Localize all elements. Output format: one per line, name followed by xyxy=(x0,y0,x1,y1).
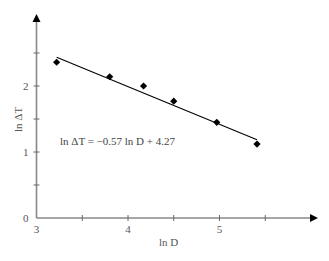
y-tick-label: 1 xyxy=(23,146,29,158)
diamond-marker-icon xyxy=(106,73,113,80)
equation-annotation: ln ΔT = −0.57 ln D + 4.27 xyxy=(60,135,176,147)
fit-line xyxy=(57,57,257,139)
x-tick-label: 5 xyxy=(217,223,223,235)
y-axis-label: ln ΔT xyxy=(12,107,24,132)
regression-line xyxy=(57,57,257,139)
diamond-marker-icon xyxy=(213,119,220,126)
y-axis-arrow-icon xyxy=(33,14,41,22)
y-tick-label: 2 xyxy=(23,80,29,92)
x-tick-label: 3 xyxy=(34,223,40,235)
diamond-marker-icon xyxy=(170,98,177,105)
diamond-marker-icon xyxy=(140,82,147,89)
axes xyxy=(33,14,319,222)
diamond-marker-icon xyxy=(53,59,60,66)
x-tick-label: 4 xyxy=(125,223,131,235)
x-axis-label: ln D xyxy=(159,236,178,248)
y-tick-label: 0 xyxy=(23,212,29,224)
x-axis-arrow-icon xyxy=(310,214,318,222)
diamond-marker-icon xyxy=(253,140,260,147)
scatter-chart: 345012 ln ΔT = −0.57 ln D + 4.27 ln D ln… xyxy=(0,0,329,261)
